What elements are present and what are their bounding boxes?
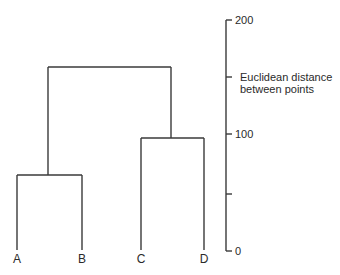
dendrogram [0,0,340,275]
leaf-label-a: A [13,253,21,265]
leaf-label-c: C [137,253,146,265]
tick-label-100: 100 [235,128,253,140]
tick-label-200: 200 [235,14,253,26]
axis-title-line-1: Euclidean distance [240,71,332,83]
cluster-ab-link [17,67,82,250]
tick-label-0: 0 [235,245,241,257]
leaf-label-b: B [78,253,86,265]
axis-title: Euclidean distance between points [240,71,332,95]
cluster-cd-link [141,67,204,250]
leaf-label-d: D [200,253,209,265]
distance-axis [226,20,232,251]
axis-title-line-2: between points [240,83,332,95]
